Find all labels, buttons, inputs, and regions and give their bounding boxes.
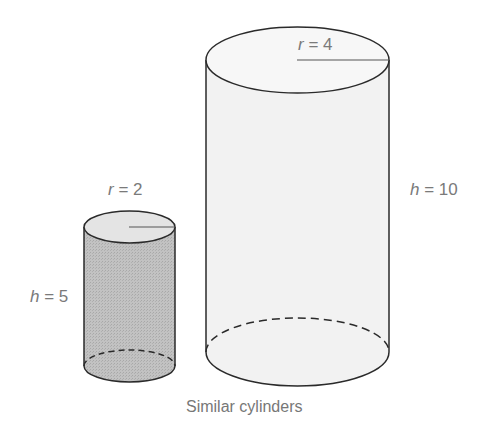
small-height-label: h = 5	[30, 287, 68, 307]
large-height-label: h = 10	[410, 180, 458, 200]
small-radius-label: r = 2	[108, 180, 143, 200]
diagram-caption: Similar cylinders	[186, 398, 302, 416]
large-cylinder	[206, 27, 389, 386]
large-radius-label: r = 4	[298, 35, 333, 55]
similar-cylinders-diagram	[0, 0, 490, 426]
small-cylinder	[84, 211, 175, 382]
